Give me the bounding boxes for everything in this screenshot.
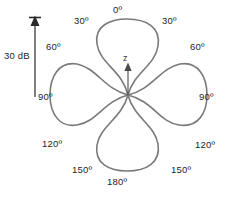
tick-label-left-90: 90º [38,91,53,102]
scale-bar-label: 30 dB [4,50,30,61]
tick-label-left-120: 120º [42,138,62,149]
tick-label-right-90: 90º [199,91,214,102]
radiation-pattern-figure: z 30 dB 0º 30º 30º 60º 60º 90º 90º 120º … [0,0,229,200]
tick-label-top-0: 0º [113,4,122,15]
polar-pattern-plot [0,0,229,200]
tick-label-right-150: 150º [171,164,191,175]
tick-label-right-30: 30º [162,15,177,26]
tick-label-right-60: 60º [190,41,205,52]
tick-label-left-150: 150º [72,164,92,175]
z-axis-label: z [123,53,128,64]
tick-label-left-60: 60º [46,41,61,52]
tick-label-bottom-180: 180º [107,176,127,187]
scale-bar-arrow [29,17,41,97]
tick-label-right-120: 120º [195,139,215,150]
tick-label-left-30: 30º [74,15,89,26]
